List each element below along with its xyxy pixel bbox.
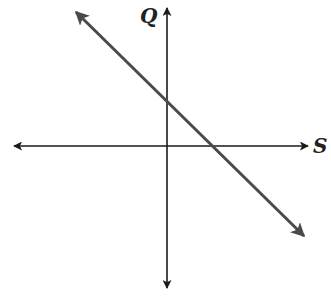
diagram-canvas — [0, 0, 331, 296]
s-axis-label: S — [313, 136, 327, 156]
downward-sloping-line — [76, 12, 304, 236]
q-axis-label: Q — [140, 6, 157, 26]
